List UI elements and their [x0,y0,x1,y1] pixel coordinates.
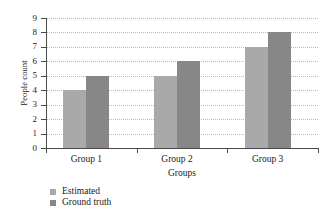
y-axis-tick [41,90,46,91]
y-axis-tick-label: 4 [22,86,37,95]
plot-area [46,18,318,148]
y-axis-tick-label: 0 [22,144,37,153]
y-axis-tick [41,47,46,48]
y-axis-tick-label: 5 [22,71,37,80]
y-axis-spine [46,18,47,148]
legend-item-estimated: Estimated [50,186,111,197]
x-axis-title: Groups [46,168,318,178]
y-axis-tick [41,105,46,106]
x-axis-spine [46,148,318,149]
bar-ground-truth [177,61,200,148]
y-axis-tick [41,119,46,120]
y-axis-tick-label: 2 [22,115,37,124]
x-axis-group-label: Group 1 [41,154,131,164]
legend-swatch-estimated [50,189,56,195]
y-axis-tick [41,18,46,19]
x-axis-tick [46,148,47,153]
x-axis-tick [137,148,138,153]
y-axis-tick [41,32,46,33]
legend-label-estimated: Estimated [62,186,100,197]
bar-ground-truth [268,32,291,148]
legend-swatch-ground-truth [50,200,56,206]
legend-item-ground-truth: Ground truth [50,197,111,208]
bar-ground-truth [86,76,109,148]
x-axis-tick [227,148,228,153]
y-axis-tick [41,76,46,77]
y-axis-tick [41,61,46,62]
y-axis-tick [41,134,46,135]
bar-estimated [63,90,86,148]
y-axis-tick-label: 6 [22,57,37,66]
legend-label-ground-truth: Ground truth [62,197,111,208]
y-axis-tick-label: 1 [22,129,37,138]
x-axis-tick [318,148,319,153]
x-axis-group-label: Group 2 [132,154,222,164]
gridline [46,18,318,19]
y-axis-tick-label: 9 [22,14,37,23]
bar-chart-figure: People count Groups Estimated Ground tru… [0,0,326,216]
chart-legend: Estimated Ground truth [50,186,111,208]
bar-estimated [154,76,177,148]
y-axis-tick-label: 8 [22,28,37,37]
bar-estimated [245,47,268,148]
y-axis-tick-label: 3 [22,100,37,109]
x-axis-group-label: Group 3 [223,154,313,164]
y-axis-tick-label: 7 [22,42,37,51]
